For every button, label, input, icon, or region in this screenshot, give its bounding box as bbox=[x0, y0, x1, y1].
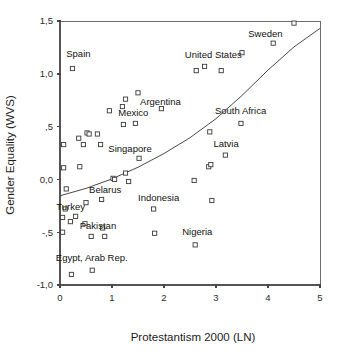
y-tick-label: 1,0 bbox=[40, 68, 53, 79]
data-point-marker bbox=[192, 178, 196, 182]
data-point-marker bbox=[194, 69, 198, 73]
data-point-marker bbox=[69, 272, 73, 276]
point-label: United States bbox=[185, 49, 242, 60]
point-label: Belarus bbox=[89, 184, 121, 195]
point-label: Sweden bbox=[248, 28, 282, 39]
data-point-marker bbox=[61, 215, 65, 219]
data-point-marker bbox=[103, 234, 107, 238]
x-tick-label: 0 bbox=[57, 292, 62, 303]
data-point-marker bbox=[121, 122, 125, 126]
data-point-marker bbox=[95, 132, 99, 136]
data-point-marker bbox=[153, 231, 157, 235]
data-point-marker bbox=[219, 69, 223, 73]
data-point-marker bbox=[64, 187, 68, 191]
data-point-marker bbox=[100, 197, 104, 201]
point-label: Turkey bbox=[56, 201, 85, 212]
point-label: Latvia bbox=[213, 138, 239, 149]
y-tick-label: 1,5 bbox=[40, 15, 53, 26]
point-annotations: SpainArgentinaMexicoSingaporeBelarusTurk… bbox=[56, 28, 283, 263]
data-point-marker bbox=[208, 130, 212, 134]
data-point-marker bbox=[133, 121, 137, 125]
point-label: Egypt, Arab Rep. bbox=[56, 252, 128, 263]
y-axis-ticks: -1,0-,50,0,51,01,5 bbox=[37, 15, 61, 290]
x-tick-label: 5 bbox=[317, 292, 322, 303]
data-point-marker bbox=[202, 64, 206, 68]
point-label: Argentina bbox=[140, 96, 181, 107]
data-point-marker bbox=[210, 198, 214, 202]
data-point-marker bbox=[292, 21, 296, 25]
x-axis-title: Protestantism 2000 (LN) bbox=[131, 331, 256, 343]
data-point-marker bbox=[90, 268, 94, 272]
x-tick-label: 2 bbox=[161, 292, 166, 303]
data-point-marker bbox=[87, 132, 91, 136]
y-axis-title: Gender Equality (WVS) bbox=[4, 95, 16, 215]
data-point-marker bbox=[61, 230, 65, 234]
x-tick-label: 1 bbox=[109, 292, 114, 303]
data-point-marker bbox=[62, 166, 66, 170]
data-point-marker bbox=[77, 136, 81, 140]
point-label: Spain bbox=[66, 48, 90, 59]
data-point-marker bbox=[89, 234, 93, 238]
data-point-marker bbox=[223, 153, 227, 157]
y-tick-label: 0,0 bbox=[40, 174, 53, 185]
y-tick-label: ,5 bbox=[45, 121, 53, 132]
x-tick-label: 4 bbox=[265, 292, 270, 303]
scatter-chart: -1,0-,50,0,51,01,5 012345 SpainArgentina… bbox=[0, 0, 339, 351]
data-point-marker bbox=[127, 179, 131, 183]
data-point-marker bbox=[98, 142, 102, 146]
data-point-marker bbox=[239, 121, 243, 125]
point-label: Singapore bbox=[108, 143, 151, 154]
data-point-marker bbox=[152, 207, 156, 211]
data-point-marker bbox=[113, 177, 117, 181]
data-point-marker bbox=[137, 156, 141, 160]
plot-frame bbox=[60, 21, 320, 285]
x-tick-label: 3 bbox=[213, 292, 218, 303]
x-axis-ticks: 012345 bbox=[57, 284, 322, 303]
data-point-marker bbox=[123, 97, 127, 101]
plot-canvas: -1,0-,50,0,51,01,5 012345 SpainArgentina… bbox=[0, 0, 339, 351]
y-tick-label: -1,0 bbox=[37, 279, 53, 290]
point-label: Nigeria bbox=[182, 226, 213, 237]
point-label: Mexico bbox=[118, 107, 148, 118]
data-point-marker bbox=[123, 171, 127, 175]
data-point-marker bbox=[209, 163, 213, 167]
data-point-marker bbox=[271, 41, 275, 45]
data-point-marker bbox=[62, 142, 66, 146]
data-point-marker bbox=[70, 66, 74, 70]
data-point-marker bbox=[68, 220, 72, 224]
data-point-marker bbox=[78, 165, 82, 169]
data-point-marker bbox=[81, 142, 85, 146]
point-label: South Africa bbox=[215, 105, 267, 116]
data-point-marker bbox=[193, 243, 197, 247]
data-point-marker bbox=[136, 91, 140, 95]
data-point-marker bbox=[107, 109, 111, 113]
y-tick-label: -,5 bbox=[42, 227, 53, 238]
data-point-marker bbox=[74, 214, 78, 218]
data-points bbox=[61, 21, 297, 277]
point-label: Pakistan bbox=[80, 220, 116, 231]
point-label: Indonesia bbox=[138, 192, 180, 203]
